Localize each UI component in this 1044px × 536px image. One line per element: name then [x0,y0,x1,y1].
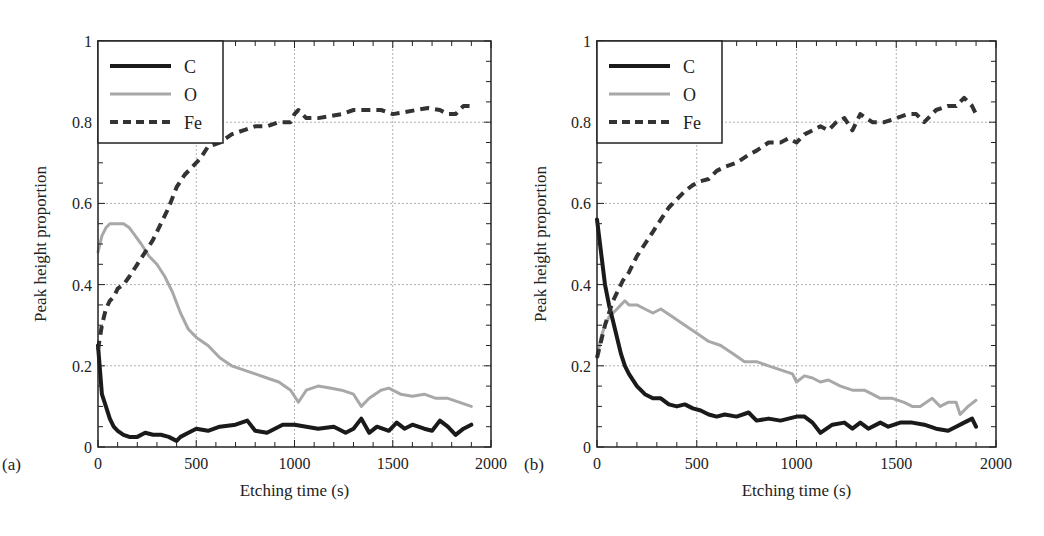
x-tick-label: 2000 [475,455,507,472]
x-tick-label: 1500 [377,455,409,472]
chart-a: 050010001500200000.20.40.60.81Etching ti… [0,0,522,536]
y-tick-label: 0.4 [72,277,92,294]
panel-b: 050010001500200000.20.40.60.81Etching ti… [522,0,1044,536]
x-tick-label: 0 [94,455,102,472]
y-tick-label: 0.6 [72,195,92,212]
legend-label-o: O [184,85,197,105]
y-tick-label: 0.2 [571,358,591,375]
x-tick-label: 500 [685,455,709,472]
x-tick-label: 2000 [980,455,1012,472]
y-tick-label: 1 [84,33,92,50]
x-tick-label: 1000 [781,455,813,472]
y-tick-label: 0.8 [571,114,591,131]
legend-label-c: C [184,57,196,77]
series-lines [597,98,976,433]
y-tick-label: 0.2 [72,358,92,375]
legend-label-c: C [683,57,695,77]
series-c-line [597,220,976,433]
y-tick-label: 1 [583,33,591,50]
series-lines [98,106,471,441]
x-tick-label: 1000 [279,455,311,472]
legend-label-fe: Fe [683,113,701,133]
panel-a: 050010001500200000.20.40.60.81Etching ti… [0,0,522,536]
x-tick-label: 1500 [880,455,912,472]
panel-label: (b) [524,455,544,474]
x-tick-label: 500 [184,455,208,472]
legend-label-o: O [683,85,696,105]
y-axis-label: Peak height proportion [31,166,50,322]
y-tick-label: 0.4 [571,277,591,294]
y-tick-label: 0 [583,439,591,456]
series-c-line [98,346,471,441]
chart-b: 050010001500200000.20.40.60.81Etching ti… [522,0,1044,536]
panel-label: (a) [2,455,21,474]
y-tick-label: 0.8 [72,114,92,131]
legend: COFe [98,41,223,143]
x-axis-label: Etching time (s) [742,481,852,500]
x-axis-label: Etching time (s) [240,481,350,500]
x-tick-label: 0 [593,455,601,472]
series-o-line [98,224,471,407]
legend-label-fe: Fe [184,113,202,133]
y-tick-label: 0 [84,439,92,456]
y-tick-label: 0.6 [571,195,591,212]
legend: COFe [597,41,722,143]
y-axis-label: Peak height proportion [531,166,550,322]
